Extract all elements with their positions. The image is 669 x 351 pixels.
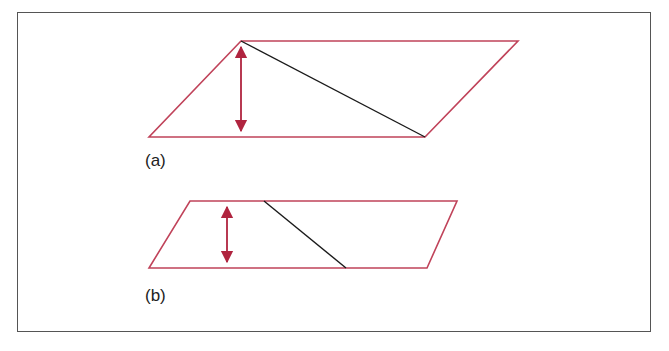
panel-a [149,41,518,137]
diagonal-a [241,41,425,137]
panel-a-label: (a) [145,151,166,171]
figure-caption-cut-off [0,340,669,351]
panel-b [149,201,457,268]
panel-b-label: (b) [145,286,166,306]
parallelogram-diagram [0,0,669,351]
diagonal-b [264,201,346,268]
parallelogram-b [149,201,457,268]
